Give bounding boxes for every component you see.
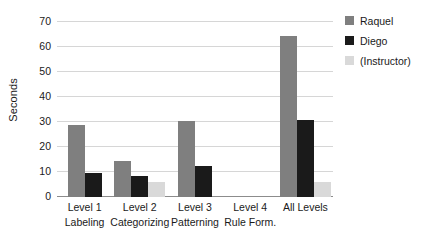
bar <box>68 125 85 198</box>
bar <box>131 176 148 197</box>
y-axis-title-label: Seconds <box>7 78 19 122</box>
plot-area: 010203040506070 <box>57 22 333 197</box>
bar-group <box>57 22 112 197</box>
bar <box>297 120 314 198</box>
x-axis-labels: Level 1LabelingLevel 2CategorizingLevel … <box>57 200 333 240</box>
legend-item: Raquel <box>345 12 433 29</box>
legend: RaquelDiego(Instructor) <box>345 12 433 72</box>
legend-label: (Instructor) <box>360 55 411 67</box>
y-tick-label: 60 <box>39 40 51 52</box>
bar-group <box>278 22 333 197</box>
y-tick-label: 50 <box>39 65 51 77</box>
y-tick-label: 30 <box>39 115 51 127</box>
y-tick-label: 20 <box>39 140 51 152</box>
bar <box>195 166 212 197</box>
legend-label: Diego <box>360 35 387 47</box>
legend-label: Raquel <box>360 15 393 27</box>
legend-swatch-icon <box>345 56 354 65</box>
x-axis-label-line2: Rule Form. <box>209 215 292 230</box>
y-tick-label: 10 <box>39 165 51 177</box>
bar-chart: Seconds 010203040506070 Level 1LabelingL… <box>0 0 434 243</box>
legend-item: Diego <box>345 32 433 49</box>
y-tick-label: 40 <box>39 90 51 102</box>
bar-group <box>167 22 222 197</box>
bars-layer <box>57 22 333 197</box>
legend-swatch-icon <box>345 36 354 45</box>
bar <box>280 36 297 197</box>
bar <box>314 182 331 197</box>
x-axis-label: All Levels <box>264 200 347 215</box>
x-axis-label-line1: All Levels <box>264 200 347 215</box>
bar <box>178 121 195 197</box>
bar-group <box>223 22 278 197</box>
bar <box>114 161 131 197</box>
bar <box>85 173 102 197</box>
y-tick-label: 70 <box>39 15 51 27</box>
legend-swatch-icon <box>345 16 354 25</box>
legend-item: (Instructor) <box>345 52 433 69</box>
bar-group <box>112 22 167 197</box>
bar <box>148 182 165 197</box>
y-axis-title: Seconds <box>2 0 24 200</box>
